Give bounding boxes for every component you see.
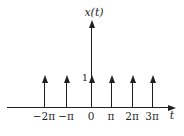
impulse-arrowhead-icon [150,75,156,83]
impulse-stem [111,82,112,108]
y-axis-label: x(t) [80,6,108,19]
impulse-stem [66,82,67,108]
impulse-stem [44,82,45,108]
x-axis-line [7,107,172,108]
impulse-stem [132,82,133,108]
impulse-arrowhead-icon [64,75,70,83]
y-axis-arrowhead-icon [89,20,95,28]
impulse-arrowhead-icon [130,75,136,83]
x-axis-label: t [166,110,178,122]
tick-label: −π [52,110,80,123]
impulse-stem [91,82,92,108]
amplitude-label: 1 [74,72,88,84]
impulse-train-figure: x(t) t 1 −2π−π0π2π3π [0,0,184,136]
impulse-stem [152,82,153,108]
impulse-arrowhead-icon [89,75,95,83]
tick-label: 3π [138,110,166,123]
impulse-arrowhead-icon [42,75,48,83]
impulse-arrowhead-icon [109,75,115,83]
